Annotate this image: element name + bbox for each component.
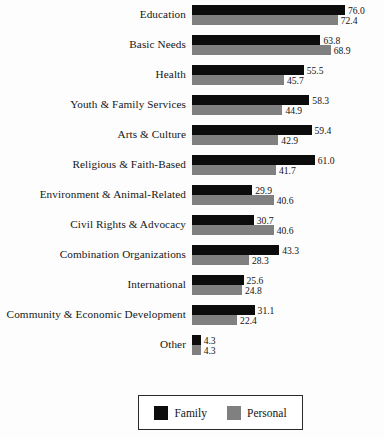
bar-value-label: 31.1: [255, 305, 275, 316]
bar-personal: 68.9: [192, 45, 384, 55]
bar-value-label: 59.4: [312, 125, 332, 136]
bar-family: 31.1: [192, 305, 384, 315]
legend-swatch-icon: [227, 406, 241, 420]
bar-personal: 4.3: [192, 345, 384, 355]
chart-row: Health55.545.7: [0, 60, 384, 90]
bar-family: 25.6: [192, 275, 384, 285]
bar-family: 30.7: [192, 215, 384, 225]
bar-group: 63.868.9: [192, 30, 384, 60]
bar-family: 58.3: [192, 95, 384, 105]
bar-group: 59.442.9: [192, 120, 384, 150]
bar-value-label: 41.7: [276, 165, 296, 176]
bar-group: 4.34.3: [192, 330, 384, 360]
bar-rect: [192, 255, 249, 265]
bar-rect: [192, 155, 315, 165]
bar-value-label: 72.4: [338, 15, 358, 26]
bar-group: 29.940.6: [192, 180, 384, 210]
bar-personal: 44.9: [192, 105, 384, 115]
bar-rect: [192, 305, 255, 315]
category-label: Youth & Family Services: [0, 90, 186, 120]
bar-group: 55.545.7: [192, 60, 384, 90]
category-label: Health: [0, 60, 186, 90]
bar-rect: [192, 75, 284, 85]
bar-rect: [192, 65, 304, 75]
chart-row: Environment & Animal-Related29.940.6: [0, 180, 384, 210]
chart-legend: FamilyPersonal: [138, 395, 303, 430]
bar-rect: [192, 225, 274, 235]
bar-value-label: 40.6: [274, 195, 294, 206]
bar-personal: 41.7: [192, 165, 384, 175]
bar-value-label: 45.7: [284, 75, 304, 86]
bar-value-label: 40.6: [274, 225, 294, 236]
bar-value-label: 43.3: [279, 245, 299, 256]
bar-value-label: 42.9: [278, 135, 298, 146]
chart-row: Education76.072.4: [0, 0, 384, 30]
bar-rect: [192, 95, 309, 105]
category-label: Basic Needs: [0, 30, 186, 60]
bar-family: 55.5: [192, 65, 384, 75]
bar-rect: [192, 345, 201, 355]
legend-swatch-icon: [154, 406, 168, 420]
category-label: Community & Economic Development: [0, 300, 186, 330]
bar-family: 43.3: [192, 245, 384, 255]
bar-family: 4.3: [192, 335, 384, 345]
chart-row: International25.624.8: [0, 270, 384, 300]
bar-rect: [192, 105, 282, 115]
bar-value-label: 22.4: [237, 315, 257, 326]
bar-rect: [192, 215, 254, 225]
category-label: International: [0, 270, 186, 300]
chart-row: Community & Economic Development31.122.4: [0, 300, 384, 330]
bar-group: 61.041.7: [192, 150, 384, 180]
bar-rect: [192, 185, 252, 195]
bar-value-label: 68.9: [331, 45, 351, 56]
bar-group: 25.624.8: [192, 270, 384, 300]
category-label: Religious & Faith-Based: [0, 150, 186, 180]
bar-personal: 24.8: [192, 285, 384, 295]
bar-rect: [192, 5, 345, 15]
legend-entry: Family: [154, 406, 207, 420]
chart-row: Basic Needs63.868.9: [0, 30, 384, 60]
bar-personal: 72.4: [192, 15, 384, 25]
bar-family: 61.0: [192, 155, 384, 165]
plot-area: Education76.072.4Basic Needs63.868.9Heal…: [0, 0, 384, 385]
category-label: Education: [0, 0, 186, 30]
bar-family: 76.0: [192, 5, 384, 15]
bar-group: 30.740.6: [192, 210, 384, 240]
chart-row: Civil Rights & Advocacy30.740.6: [0, 210, 384, 240]
bar-group: 31.122.4: [192, 300, 384, 330]
category-label: Civil Rights & Advocacy: [0, 210, 186, 240]
category-label: Arts & Culture: [0, 120, 186, 150]
bar-value-label: 58.3: [309, 95, 329, 106]
category-label: Environment & Animal-Related: [0, 180, 186, 210]
horizontal-bar-chart: Education76.072.4Basic Needs63.868.9Heal…: [0, 0, 384, 439]
bar-rect: [192, 245, 279, 255]
legend-label: Personal: [247, 407, 287, 419]
bar-rect: [192, 275, 244, 285]
bar-rect: [192, 35, 320, 45]
bar-rect: [192, 15, 338, 25]
bar-rect: [192, 135, 278, 145]
bar-value-label: 29.9: [252, 185, 272, 196]
legend-label: Family: [174, 407, 207, 419]
bar-personal: 40.6: [192, 195, 384, 205]
bar-group: 76.072.4: [192, 0, 384, 30]
bar-family: 59.4: [192, 125, 384, 135]
bar-value-label: 61.0: [315, 155, 335, 166]
bar-rect: [192, 125, 312, 135]
chart-row: Other4.34.3: [0, 330, 384, 360]
bar-value-label: 55.5: [304, 65, 324, 76]
bar-rect: [192, 335, 201, 345]
bar-value-label: 30.7: [254, 215, 274, 226]
bar-group: 58.344.9: [192, 90, 384, 120]
bar-personal: 45.7: [192, 75, 384, 85]
bar-group: 43.328.3: [192, 240, 384, 270]
bar-rect: [192, 45, 331, 55]
bar-personal: 22.4: [192, 315, 384, 325]
chart-row: Arts & Culture59.442.9: [0, 120, 384, 150]
bar-rect: [192, 195, 274, 205]
bar-value-label: 24.8: [242, 285, 262, 296]
bar-family: 63.8: [192, 35, 384, 45]
legend-entry: Personal: [227, 406, 287, 420]
bar-rect: [192, 315, 237, 325]
bar-rect: [192, 285, 242, 295]
